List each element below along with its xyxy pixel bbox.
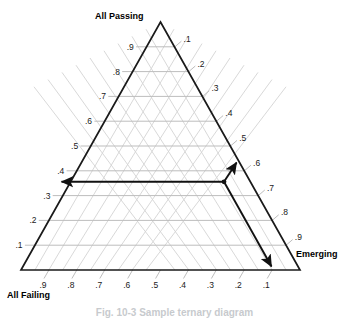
vertex-label-emerging: Emerging [296,249,338,259]
tick-marks-right-axis [175,41,293,245]
tick-label-bottom-3: .7 [95,280,102,290]
tick-label-right-8: .8 [281,207,288,217]
tick-label-right-5: .5 [239,133,246,143]
tick-label-bottom-2: .8 [67,280,74,290]
tick-labels-bottom-axis: .9 .8 .7 .6 .5 .4 .3 .2 .1 [39,280,270,290]
tick-label-right-6: .6 [253,158,260,168]
tick-label-right-2: .2 [198,59,205,69]
tick-label-right-7: .7 [267,183,274,193]
tick-label-left-2: .2 [29,215,36,225]
tick-label-bottom-7: .3 [207,280,214,290]
tick-label-bottom-1: .9 [39,280,46,290]
tick-label-bottom-5: .5 [151,280,158,290]
tick-label-bottom-9: .1 [263,280,270,290]
vertex-label-all-passing: All Passing [95,11,144,21]
reading-junction-point [222,179,227,184]
tick-label-right-1: .1 [184,34,191,44]
tick-label-left-3: .3 [43,191,50,201]
ternary-plot-figure: .1 .2 .3 .4 .5 .6 .7 .8 .9 .1 .2 .3 .4 .… [0,0,349,318]
tick-marks-bottom-axis [44,270,272,279]
tick-label-bottom-6: .4 [179,280,186,290]
figure-caption: Fig. 10-3 Sample ternary diagram [0,307,349,318]
tick-label-right-3: .3 [211,83,218,93]
tick-label-left-8: .8 [113,67,120,77]
tick-label-bottom-8: .2 [235,280,242,290]
tick-label-left-1: .1 [16,240,23,250]
tick-label-left-5: .5 [71,141,78,151]
tick-label-right-9: .9 [295,232,302,242]
tick-labels-right-axis: .1 .2 .3 .4 .5 .6 .7 .8 .9 [184,34,303,242]
tick-label-left-6: .6 [85,116,92,126]
tick-label-left-9: .9 [127,42,134,52]
tick-label-left-7: .7 [99,91,106,101]
vertex-label-all-failing: All Failing [7,290,50,300]
tick-label-left-4: .4 [57,166,64,176]
ternary-chart-svg: .1 .2 .3 .4 .5 .6 .7 .8 .9 .1 .2 .3 .4 .… [0,0,349,318]
tick-label-right-4: .4 [225,108,232,118]
tick-label-bottom-4: .6 [123,280,130,290]
